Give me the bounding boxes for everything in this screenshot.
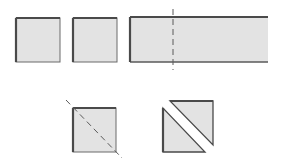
square-1 <box>16 18 60 62</box>
cutting-diagram <box>0 0 281 159</box>
square-2 <box>73 18 117 62</box>
fabric-strip <box>130 17 268 62</box>
